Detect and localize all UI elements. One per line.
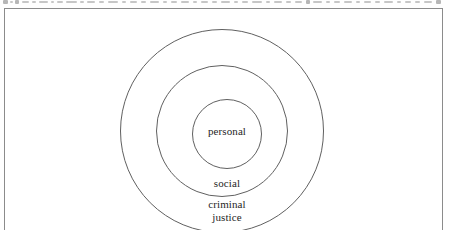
cropped-caption-remnant	[0, 0, 450, 6]
label-criminal-justice: criminal justice	[177, 198, 277, 224]
figure-page: personal social criminal justice	[0, 0, 450, 230]
label-social: social	[182, 177, 272, 190]
label-personal: personal	[182, 125, 272, 138]
figure-frame: personal social criminal justice	[4, 8, 443, 230]
